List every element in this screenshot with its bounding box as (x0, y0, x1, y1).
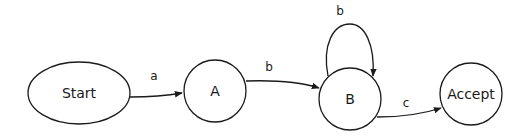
node-accept-label: Accept (447, 86, 495, 102)
node-a[interactable]: A (184, 60, 246, 122)
edge-b-self-loop: b (326, 4, 373, 76)
node-a-label: A (210, 83, 220, 99)
node-b[interactable]: B (319, 68, 381, 130)
edge-b-to-accept: c (377, 96, 441, 117)
node-accept[interactable]: Accept (440, 63, 502, 125)
node-start-label: Start (62, 85, 97, 101)
node-b-label: B (345, 91, 355, 107)
state-diagram: a b b c Start A B (0, 0, 526, 137)
edge-label-b: b (265, 60, 273, 74)
edge-label-b-loop: b (336, 4, 344, 18)
edge-label-a: a (150, 69, 157, 83)
edge-start-to-a: a (130, 69, 182, 97)
node-start[interactable]: Start (28, 62, 130, 124)
edge-a-to-b: b (246, 60, 319, 88)
edge-label-c: c (403, 96, 410, 110)
